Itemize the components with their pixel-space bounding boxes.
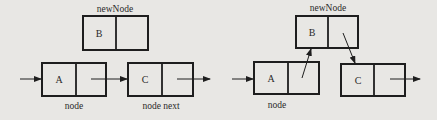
new-node-label: newNode <box>310 3 346 13</box>
panel-before: newNode B A C <box>20 4 210 111</box>
node-box-c: C <box>341 64 405 96</box>
node-box-b: B <box>83 16 148 50</box>
node-box-a: A <box>254 62 319 94</box>
linked-list-insertion-diagram: newNode B A C <box>0 0 437 120</box>
node-label-a: A <box>55 74 63 85</box>
node-box-b: B <box>296 16 358 48</box>
caption-node: node <box>65 101 83 111</box>
new-node-label: newNode <box>97 4 133 14</box>
diagram-canvas: newNode B A C <box>0 0 437 120</box>
node-label-b: B <box>309 27 316 38</box>
node-label-c: C <box>355 75 362 86</box>
node-label-c: C <box>142 74 149 85</box>
panel-after: newNode B A C <box>232 3 420 110</box>
node-label-b: B <box>96 28 103 39</box>
node-label-a: A <box>267 73 275 84</box>
arrow-a-to-b <box>302 49 311 78</box>
caption-node: node <box>268 100 286 110</box>
caption-node-next: node next <box>142 101 180 111</box>
